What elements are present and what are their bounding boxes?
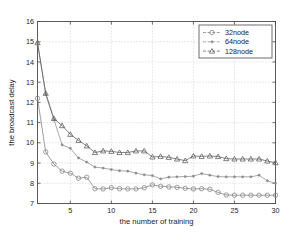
x-tick-label: 30 xyxy=(272,206,280,215)
data-point-marker xyxy=(102,167,104,169)
data-point-marker xyxy=(192,175,194,177)
data-point-marker xyxy=(211,41,213,43)
data-point-marker xyxy=(209,174,211,176)
y-axis-title: the broadcast delay xyxy=(7,79,16,145)
legend-label-128node: 128node xyxy=(225,47,253,56)
series-line-64node xyxy=(38,43,276,184)
series-line-128node xyxy=(38,43,276,163)
x-tick-label: 5 xyxy=(68,206,72,215)
y-tick-label: 12 xyxy=(26,98,34,107)
data-point-marker xyxy=(225,176,227,178)
data-point-marker xyxy=(274,182,276,184)
legend-label-32node: 32node xyxy=(225,28,249,37)
y-tick-label: 8 xyxy=(30,179,34,188)
x-axis-title: the number of training xyxy=(120,217,194,226)
data-point-marker xyxy=(258,174,260,176)
x-tick-label: 20 xyxy=(189,206,197,215)
y-tick-label: 14 xyxy=(26,58,34,67)
legend-label-64node: 64node xyxy=(225,37,249,46)
chart-svg: 7891011121314151651015202530the number o… xyxy=(0,0,290,240)
data-point-marker xyxy=(110,168,112,170)
data-point-marker xyxy=(184,175,186,177)
series-32node xyxy=(35,96,277,197)
data-point-marker xyxy=(135,172,137,174)
data-point-marker xyxy=(69,147,71,149)
data-point-marker xyxy=(200,172,202,174)
broadcast-delay-chart: 7891011121314151651015202530the number o… xyxy=(0,0,290,240)
data-point-marker xyxy=(176,176,178,178)
y-tick-label: 11 xyxy=(27,118,34,127)
y-tick-label: 13 xyxy=(26,78,34,87)
data-point-marker xyxy=(77,157,79,159)
series-64node xyxy=(36,42,276,185)
series-line-32node xyxy=(38,98,276,195)
data-point-marker xyxy=(143,174,145,176)
data-point-marker xyxy=(217,175,219,177)
data-point-marker xyxy=(233,176,235,178)
y-tick-label: 16 xyxy=(26,17,34,26)
data-point-marker xyxy=(61,144,63,146)
y-tick-label: 10 xyxy=(26,138,34,147)
chart-legend: 32node64node128node xyxy=(199,25,272,58)
x-tick-label: 25 xyxy=(230,206,238,215)
x-tick-label: 15 xyxy=(148,206,156,215)
y-tick-label: 7 xyxy=(30,199,34,208)
data-point-marker xyxy=(250,176,252,178)
data-point-marker xyxy=(118,170,120,172)
data-point-marker xyxy=(159,178,161,180)
data-point-marker xyxy=(266,180,268,182)
data-point-marker xyxy=(86,161,88,163)
x-tick-label: 10 xyxy=(107,206,115,215)
y-tick-label: 9 xyxy=(30,159,34,168)
data-point-marker xyxy=(168,176,170,178)
data-point-marker xyxy=(151,174,153,176)
data-point-marker xyxy=(242,176,244,178)
data-point-marker xyxy=(127,170,129,172)
data-point-marker xyxy=(94,166,96,168)
y-tick-label: 15 xyxy=(26,37,34,46)
